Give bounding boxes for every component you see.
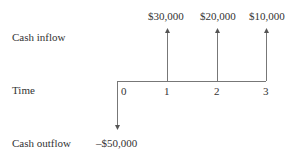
arrowhead-up-icon: [264, 28, 269, 33]
inflow-value-1: $30,000: [148, 10, 184, 22]
cash-inflow-label: Cash inflow: [12, 31, 65, 43]
timeline-graphic: [0, 0, 297, 154]
time-tick-1: 1: [164, 85, 170, 97]
time-tick-2: 2: [214, 85, 220, 97]
arrowhead-down-icon: [115, 125, 120, 130]
arrowhead-up-icon: [215, 28, 220, 33]
time-label: Time: [12, 84, 35, 96]
time-tick-0: 0: [121, 85, 127, 97]
outflow-value: –$50,000: [96, 137, 137, 149]
inflow-value-2: $20,000: [200, 10, 236, 22]
inflow-value-3: $10,000: [249, 10, 285, 22]
arrowhead-up-icon: [165, 28, 170, 33]
cash-flow-diagram: Cash inflow Time Cash outflow 0 1 2 3 $3…: [0, 0, 297, 154]
time-tick-3: 3: [263, 85, 269, 97]
cash-outflow-label: Cash outflow: [12, 137, 71, 149]
